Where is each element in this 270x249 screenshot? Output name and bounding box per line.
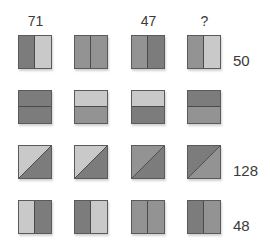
tile-half [19, 107, 51, 123]
unknown-column-label: ? [187, 13, 222, 29]
tile-half [188, 91, 220, 107]
tile-half [35, 201, 51, 233]
puzzle-tile [18, 145, 52, 179]
row-label: 50 [233, 53, 267, 69]
tile-half [132, 91, 164, 107]
tile-half [91, 201, 107, 233]
puzzle-tile [74, 90, 108, 124]
puzzle-tile [74, 35, 108, 69]
puzzle-tile [18, 90, 52, 124]
tile-half [204, 201, 220, 233]
puzzle-tile [187, 90, 221, 124]
diagonal-split-icon [19, 146, 51, 178]
puzzle-tile [187, 145, 221, 179]
puzzle-tile [18, 200, 52, 234]
puzzle-tile [74, 200, 108, 234]
tile-half [132, 107, 164, 123]
tile-half [19, 91, 51, 107]
row-label: 128 [233, 163, 267, 179]
tile-half [75, 107, 107, 123]
tile-number-puzzle: 7147? 5012848 [0, 0, 270, 249]
puzzle-tile [131, 200, 165, 234]
puzzle-tile [74, 145, 108, 179]
diagonal-split-icon [188, 146, 220, 178]
tile-half [148, 36, 164, 68]
puzzle-tile [131, 90, 165, 124]
tile-half [148, 201, 164, 233]
tile-half [91, 36, 107, 68]
puzzle-tile [131, 35, 165, 69]
puzzle-tile [187, 35, 221, 69]
tile-half [188, 36, 204, 68]
tile-half [188, 107, 220, 123]
tile-half [75, 91, 107, 107]
tile-half [75, 36, 91, 68]
tile-half [75, 201, 91, 233]
diagonal-split-icon [132, 146, 164, 178]
tile-half [132, 36, 148, 68]
tile-half [188, 201, 204, 233]
tile-half [19, 36, 35, 68]
column-label: 71 [18, 13, 53, 29]
puzzle-tile [131, 145, 165, 179]
tile-half [35, 36, 51, 68]
tile-half [204, 36, 220, 68]
tile-half [132, 201, 148, 233]
puzzle-tile [187, 200, 221, 234]
tile-half [19, 201, 35, 233]
puzzle-tile [18, 35, 52, 69]
column-label: 47 [131, 13, 166, 29]
diagonal-split-icon [75, 146, 107, 178]
row-label: 48 [233, 218, 267, 234]
